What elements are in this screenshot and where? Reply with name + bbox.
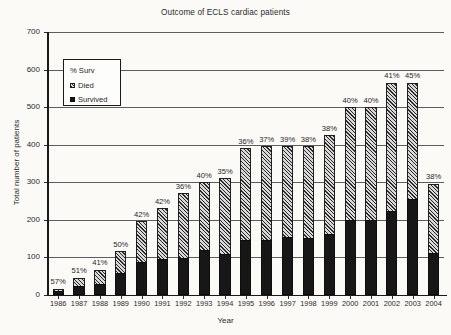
- pct-surv-label-1991: 42%: [150, 198, 174, 206]
- bar-segment-survived: [407, 199, 418, 294]
- x-tick-mark: [267, 296, 268, 299]
- x-tick-mark: [162, 296, 163, 299]
- bar-segment-survived: [136, 262, 147, 295]
- pct-surv-label-1986: 57%: [46, 278, 70, 286]
- bar-2002: [386, 83, 397, 295]
- pct-surv-label-1999: 38%: [317, 125, 341, 133]
- x-tick-mark: [225, 296, 226, 299]
- y-tick-label: 0: [10, 291, 40, 299]
- bar-1992: [178, 193, 189, 294]
- bar-segment-survived: [178, 258, 189, 294]
- y-tick-label: 200: [10, 216, 40, 224]
- x-tick-mark: [79, 296, 80, 299]
- x-tick-mark: [329, 296, 330, 299]
- y-tick-label: 700: [10, 28, 40, 36]
- bar-segment-survived: [199, 250, 210, 295]
- bar-1996: [261, 146, 272, 294]
- pct-surv-label-1987: 51%: [67, 267, 91, 275]
- y-tick-label: 500: [10, 103, 40, 111]
- legend-label-died: Died: [78, 81, 94, 90]
- legend-item-pct-surv: % Surv: [70, 67, 94, 75]
- pct-surv-label-1989: 50%: [109, 241, 133, 249]
- x-tick-mark: [121, 296, 122, 299]
- pct-surv-label-1988: 41%: [88, 259, 112, 267]
- x-tick-mark: [434, 296, 435, 299]
- died-swatch-icon: [70, 83, 75, 88]
- x-tick-mark: [246, 296, 247, 299]
- bar-segment-survived: [261, 240, 272, 295]
- bar-1990: [136, 221, 147, 294]
- bar-segment-survived: [157, 259, 168, 295]
- bar-1994: [219, 178, 230, 294]
- pct-surv-label-2004: 38%: [422, 173, 446, 181]
- bar-1987: [73, 278, 84, 295]
- x-tick-mark: [183, 296, 184, 299]
- x-tick-mark: [413, 296, 414, 299]
- pct-surv-label-2001: 40%: [359, 97, 383, 105]
- pct-surv-label-1994: 35%: [213, 168, 237, 176]
- bar-1986: [53, 289, 64, 295]
- x-tick-mark: [371, 296, 372, 299]
- bar-2004: [428, 184, 439, 295]
- gridline: [48, 32, 444, 33]
- bar-2003: [407, 83, 418, 295]
- x-tick-mark: [100, 296, 101, 299]
- legend-item-died: Died: [70, 82, 94, 90]
- y-tick-label: 100: [10, 253, 40, 261]
- bar-1993: [199, 182, 210, 295]
- bar-1998: [303, 146, 314, 294]
- chart-legend: % Surv Died Survived: [63, 59, 121, 106]
- x-axis-label: Year: [0, 316, 451, 325]
- x-tick-mark: [392, 296, 393, 299]
- bar-1989: [115, 251, 126, 295]
- x-tick-mark: [58, 296, 59, 299]
- bar-segment-survived: [240, 240, 251, 294]
- survived-swatch-icon: [70, 97, 75, 102]
- x-tick-mark: [142, 296, 143, 299]
- bar-2000: [345, 107, 356, 295]
- x-tick-label-2004: 2004: [422, 300, 446, 307]
- bar-2001: [365, 107, 376, 295]
- bar-segment-survived: [345, 220, 356, 295]
- x-tick-mark: [288, 296, 289, 299]
- bar-segment-survived: [94, 284, 105, 294]
- bar-1988: [94, 270, 105, 295]
- bar-segment-survived: [53, 291, 64, 294]
- x-tick-mark: [350, 296, 351, 299]
- bar-segment-survived: [303, 238, 314, 294]
- pct-surv-label-1990: 42%: [130, 211, 154, 219]
- bar-segment-survived: [219, 254, 230, 295]
- pct-surv-label-2003: 45%: [401, 72, 425, 80]
- y-tick-label: 300: [10, 178, 40, 186]
- chart-figure: Outcome of ECLS cardiac patients Total n…: [0, 0, 451, 335]
- x-tick-mark: [308, 296, 309, 299]
- bar-segment-survived: [282, 237, 293, 295]
- legend-label-pct-surv: % Surv: [70, 66, 94, 75]
- y-axis-line: [47, 32, 49, 296]
- bar-1999: [324, 135, 335, 294]
- bar-segment-survived: [73, 286, 84, 295]
- x-axis-line: [47, 295, 447, 297]
- y-tick-label: 600: [10, 66, 40, 74]
- bar-1997: [282, 146, 293, 294]
- legend-item-survived: Survived: [70, 96, 108, 104]
- y-axis-label: Total number of patients: [12, 103, 21, 223]
- y-tick-label: 400: [10, 141, 40, 149]
- bar-1995: [240, 148, 251, 294]
- gridline: [48, 107, 444, 108]
- bar-segment-survived: [365, 220, 376, 295]
- pct-surv-label-1998: 38%: [296, 136, 320, 144]
- bar-segment-survived: [428, 253, 439, 295]
- bar-segment-survived: [386, 211, 397, 294]
- bar-segment-survived: [115, 273, 126, 295]
- legend-label-survived: Survived: [78, 95, 108, 104]
- bar-segment-survived: [324, 234, 335, 295]
- bar-1991: [157, 208, 168, 294]
- x-tick-mark: [204, 296, 205, 299]
- chart-title: Outcome of ECLS cardiac patients: [0, 8, 451, 17]
- pct-surv-label-1992: 36%: [171, 183, 195, 191]
